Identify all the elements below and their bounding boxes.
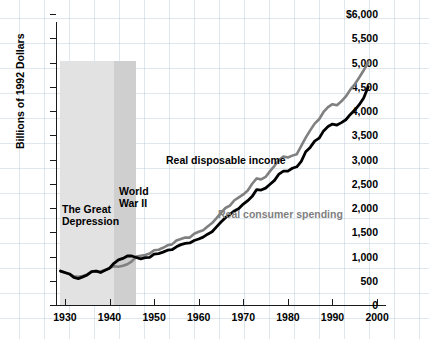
x-axis-tick-label: 1930: [53, 311, 76, 323]
x-axis-tick-label: 1950: [142, 311, 165, 323]
x-axis-tick-label: 1990: [321, 311, 344, 323]
line-real-consumer-spending: [60, 63, 368, 277]
x-axis-tick-label: 2000: [365, 311, 388, 323]
series-label-real-disposable-income: Real disposable income: [166, 154, 286, 166]
x-axis-ticks: 19301940195019601970198019902000: [56, 305, 386, 329]
chart-container: Billions of 1992 Dollars $6,0005,5005,00…: [0, 0, 429, 339]
x-axis-tick-label: 1940: [98, 311, 121, 323]
annotation-great-depression: The Great Depression: [62, 204, 119, 227]
x-axis-tick-label: 1980: [276, 311, 299, 323]
series-label-real-consumer-spending: Real consumer spending: [218, 208, 343, 220]
plot-area: Billions of 1992 Dollars $6,0005,5005,00…: [56, 14, 386, 305]
annotation-world-war-ii: World War II: [119, 186, 149, 209]
x-axis-tick-label: 1960: [187, 311, 210, 323]
x-axis-tick-label: 1970: [232, 311, 255, 323]
